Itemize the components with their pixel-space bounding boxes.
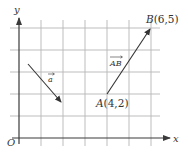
- point-a-label: A(4,2): [95, 97, 129, 109]
- point-b-label: B(6,5): [145, 13, 179, 25]
- vector-a: [28, 64, 61, 102]
- coordinate-diagram: y x O a AB A(4,2) B(6,5): [0, 0, 188, 160]
- vector-ab-label: AB: [109, 56, 123, 68]
- origin-label: O: [7, 137, 15, 148]
- y-axis-label: y: [13, 4, 20, 15]
- vector-a-label: a: [48, 73, 55, 84]
- vector-ab-label-text: AB: [109, 59, 122, 68]
- x-axis-label: x: [173, 133, 179, 144]
- grid-lines: [10, 20, 160, 146]
- vector-a-label-text: a: [48, 75, 53, 84]
